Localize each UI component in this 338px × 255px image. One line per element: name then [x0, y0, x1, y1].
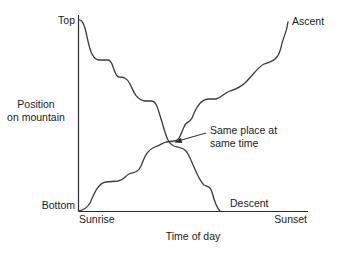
annotation-line2: same time — [210, 137, 259, 149]
mountain-diagram: Top Position on mountain Bottom Sunrise … — [0, 0, 338, 255]
ascent-label: Ascent — [292, 15, 324, 27]
annotation-arrow-line — [178, 133, 206, 141]
descent-label: Descent — [230, 197, 269, 209]
y-axis-label-line1: Position — [17, 98, 55, 110]
descent-curve — [79, 20, 221, 211]
x-axis-label: Time of day — [166, 230, 221, 242]
x-axis-end-label: Sunset — [274, 213, 307, 225]
y-axis-top-label: Top — [58, 14, 75, 26]
y-axis-label-line2: on mountain — [7, 111, 65, 123]
x-axis-start-label: Sunrise — [79, 213, 115, 225]
ascent-curve — [79, 22, 288, 211]
y-axis-bottom-label: Bottom — [42, 199, 76, 211]
annotation-line1: Same place at — [210, 124, 277, 136]
